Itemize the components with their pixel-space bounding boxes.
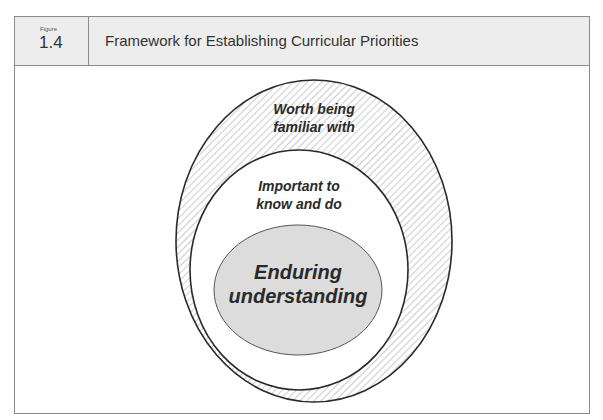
inner-label: Enduring understanding [198,260,398,308]
inner-label-line1: Enduring [198,260,398,284]
middle-label-line2: know and do [199,196,399,214]
outer-label: Worth being familiar with [214,101,414,136]
outer-label-line2: familiar with [214,119,414,137]
middle-label-line1: Important to [199,178,399,196]
outer-label-line1: Worth being [214,101,414,119]
inner-label-line2: understanding [198,284,398,308]
middle-label: Important to know and do [199,178,399,213]
